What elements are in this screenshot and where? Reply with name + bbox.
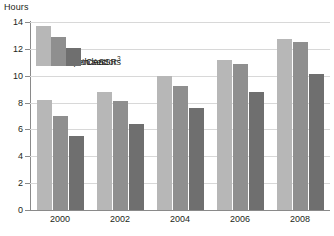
legend-label-cassr-footnote: 3: [117, 55, 121, 62]
y-axis-tick-mark: [25, 49, 30, 50]
y-axis-tick-label: 4: [1, 151, 23, 161]
bar-group: [270, 22, 330, 210]
legend-label-cassr-text: CASSR: [86, 57, 117, 67]
legend-swatch-cassr: [66, 48, 81, 66]
legend-item-cassr: CASSR3: [66, 48, 121, 66]
bar-independent: [37, 100, 52, 210]
y-axis-tick-mark: [25, 156, 30, 157]
x-axis-tick-label: 2008: [270, 214, 330, 224]
x-axis-tick-label: 2000: [30, 214, 90, 224]
bar-chart: Hours 02468101214 20002002200420062008 I…: [0, 0, 334, 236]
y-axis-tick-label: 0: [1, 205, 23, 215]
bar-both-sectors: [53, 116, 68, 210]
x-axis-tick-label: 2006: [210, 214, 270, 224]
chart-legend: Independent Both sectors CASSR3: [36, 26, 176, 76]
y-axis-tick-mark: [25, 129, 30, 130]
bar-cassr: [309, 74, 324, 210]
x-axis-tick-label: 2004: [150, 214, 210, 224]
legend-label-cassr: CASSR3: [86, 57, 121, 67]
bar-both-sectors: [293, 42, 308, 210]
x-axis-tick-label: 2002: [90, 214, 150, 224]
bar-cassr: [129, 124, 144, 210]
bar-cassr: [249, 92, 264, 210]
y-axis-tick-label: 2: [1, 178, 23, 188]
y-axis-tick-label: 12: [1, 44, 23, 54]
y-axis-tick-label: 6: [1, 124, 23, 134]
legend-swatch-independent: [36, 26, 51, 66]
y-axis-tick-label: 10: [1, 71, 23, 81]
bar-independent: [277, 39, 292, 210]
x-axis-line: [30, 210, 330, 211]
bar-independent: [97, 92, 112, 210]
y-axis-tick-mark: [25, 210, 30, 211]
bar-both-sectors: [233, 64, 248, 210]
bar-independent: [157, 76, 172, 210]
bar-cassr: [69, 136, 84, 210]
bar-both-sectors: [173, 86, 188, 210]
bar-cassr: [189, 108, 204, 210]
bar-independent: [217, 60, 232, 210]
bar-group: [210, 22, 270, 210]
y-axis-tick-mark: [25, 183, 30, 184]
y-axis-tick-label: 14: [1, 17, 23, 27]
y-axis-tick-mark: [25, 76, 30, 77]
y-axis-tick-label: 8: [1, 98, 23, 108]
x-axis-tick-labels: 20002002200420062008: [30, 214, 330, 234]
y-axis-tick-labels: 02468101214: [0, 0, 23, 236]
y-axis-tick-mark: [25, 22, 30, 23]
y-axis-tick-mark: [25, 103, 30, 104]
legend-swatch-both-sectors: [51, 37, 66, 66]
bar-both-sectors: [113, 101, 128, 210]
